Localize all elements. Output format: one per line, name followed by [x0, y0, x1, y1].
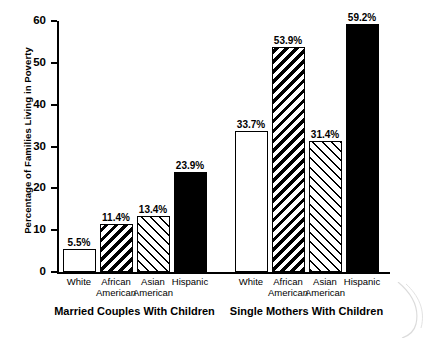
y-axis-tick — [51, 271, 57, 273]
y-axis-tick — [51, 187, 57, 189]
bar-value-label: 33.7% — [237, 120, 265, 130]
bar: 53.9% — [272, 47, 305, 272]
bar-value-label: 23.9% — [176, 161, 204, 171]
y-axis-tick-label: 50 — [6, 57, 46, 69]
y-axis-tick-label: 20 — [6, 182, 46, 194]
bar: 59.2% — [346, 24, 379, 272]
bar-value-label: 53.9% — [274, 36, 302, 46]
bar: 23.9% — [174, 172, 207, 272]
y-axis-tick — [51, 104, 57, 106]
group-title: Single Mothers With Children — [205, 305, 409, 317]
bar-value-label: 11.4% — [102, 213, 130, 223]
bar: 5.5% — [63, 249, 96, 272]
y-axis-tick-label: 10 — [6, 224, 46, 236]
x-axis-label: Hispanic — [165, 277, 216, 288]
y-axis-tick-label: 30 — [6, 141, 46, 153]
plot-area: 5.5%11.4%13.4%23.9%33.7%53.9%31.4%59.2% — [59, 21, 390, 272]
y-axis-tick-label: 60 — [6, 15, 46, 27]
bar-value-label: 5.5% — [68, 238, 91, 248]
y-axis-tick — [51, 62, 57, 64]
bar-value-label: 13.4% — [139, 205, 167, 215]
y-axis-tick — [51, 229, 57, 231]
bar: 11.4% — [100, 224, 133, 272]
y-axis-tick-label: 0 — [6, 266, 46, 278]
y-axis-tick — [51, 20, 57, 22]
bar: 31.4% — [309, 141, 342, 272]
bar-value-label: 59.2% — [348, 13, 376, 23]
bar-value-label: 31.4% — [311, 130, 339, 140]
x-axis-line — [57, 272, 390, 274]
x-axis-label: Hispanic — [337, 277, 388, 288]
y-axis-tick-label: 40 — [6, 99, 46, 111]
y-axis-tick — [51, 146, 57, 148]
bar: 33.7% — [235, 131, 268, 272]
bar: 13.4% — [137, 216, 170, 272]
bar-chart: Percentage of Families Living in Poverty… — [0, 0, 430, 340]
